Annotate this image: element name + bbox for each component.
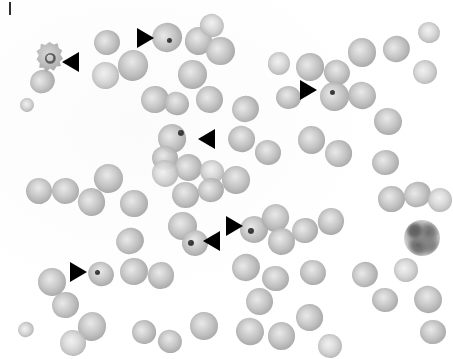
- red-blood-cell: [320, 135, 356, 171]
- cell-inclusion: [45, 53, 56, 64]
- red-blood-cell: [113, 46, 152, 86]
- red-blood-cell: [21, 173, 56, 208]
- red-blood-cell: [112, 224, 148, 259]
- red-blood-cell: [155, 121, 189, 155]
- arrowhead-mid-left-inclusion-icon: [203, 231, 220, 251]
- cell-inclusion: [188, 240, 194, 246]
- red-blood-cell: [196, 175, 227, 205]
- red-blood-cell: [129, 317, 159, 346]
- red-blood-cell: [177, 59, 207, 90]
- arrowhead-lower-left-inclusion-icon: [70, 262, 87, 282]
- red-blood-cell: [90, 160, 127, 197]
- red-blood-cell: [182, 24, 214, 57]
- red-blood-cell: [38, 268, 67, 297]
- cell-inclusion: [248, 228, 254, 234]
- red-blood-cell: [343, 77, 380, 114]
- red-blood-cell: [75, 309, 110, 344]
- red-blood-cell: [348, 38, 376, 67]
- micrograph-figure: [0, 0, 453, 359]
- arrowhead-upper-right-inclusion-icon: [300, 80, 317, 100]
- red-blood-cell: [379, 32, 414, 67]
- arrowhead-top-inclusion-icon: [137, 28, 154, 48]
- red-blood-cell: [267, 321, 295, 350]
- cell-inclusion: [95, 270, 100, 275]
- red-blood-cell: [92, 62, 120, 90]
- red-blood-cell: [147, 18, 186, 57]
- corner-tick-mark: [9, 2, 11, 15]
- red-blood-cell: [253, 138, 283, 166]
- red-blood-cell: [15, 319, 36, 340]
- red-blood-cell: [260, 263, 292, 293]
- red-blood-cell: [146, 261, 175, 290]
- red-blood-cell: [19, 97, 35, 113]
- red-blood-cell: [289, 215, 321, 246]
- cell-inclusion: [167, 38, 172, 43]
- red-blood-cell: [318, 80, 352, 114]
- slide-background: [0, 0, 453, 359]
- red-blood-cell: [168, 212, 197, 241]
- red-blood-cell: [420, 320, 446, 345]
- red-blood-cell: [391, 255, 420, 285]
- red-blood-cell: [196, 10, 227, 41]
- red-blood-cell: [227, 91, 263, 127]
- red-blood-cell: [257, 199, 294, 236]
- red-blood-cell: [119, 189, 149, 217]
- red-blood-cell: [74, 185, 108, 220]
- red-blood-cell: [137, 82, 173, 117]
- red-blood-cell: [147, 156, 182, 191]
- red-blood-cell: [84, 258, 118, 291]
- red-blood-cell: [320, 56, 353, 89]
- red-blood-cell: [190, 312, 219, 341]
- red-blood-cell: [228, 249, 265, 285]
- red-blood-cell: [410, 282, 446, 318]
- red-blood-cell: [26, 65, 59, 98]
- red-blood-cell: [217, 162, 254, 199]
- crenated-red-blood-cell: [36, 42, 63, 72]
- arrowhead-mid-right-inclusion-icon: [226, 216, 243, 236]
- red-blood-cell: [51, 177, 80, 205]
- red-blood-cell: [161, 89, 192, 119]
- red-blood-cell: [292, 300, 327, 334]
- red-blood-cell: [275, 85, 302, 110]
- arrowhead-crenated-cell-icon: [62, 52, 79, 72]
- red-blood-cell: [204, 34, 238, 67]
- stained-leukocyte: [404, 220, 440, 256]
- red-blood-cell: [195, 85, 225, 115]
- red-blood-cell: [91, 27, 123, 58]
- red-blood-cell: [317, 333, 343, 359]
- red-blood-cell: [198, 157, 227, 185]
- cell-inclusion: [330, 90, 335, 95]
- red-blood-cell: [410, 57, 441, 88]
- red-blood-cell: [347, 257, 382, 292]
- red-blood-cell: [371, 104, 406, 138]
- red-blood-cell: [232, 313, 269, 349]
- red-blood-cell: [377, 185, 405, 213]
- red-blood-cell: [48, 288, 82, 322]
- red-blood-cell: [314, 204, 348, 238]
- red-blood-cell: [426, 186, 453, 214]
- red-blood-cell: [297, 125, 326, 155]
- red-blood-cell: [416, 20, 442, 45]
- cell-inclusion: [178, 130, 184, 136]
- red-blood-cell: [244, 286, 276, 318]
- red-blood-cell: [152, 146, 178, 170]
- red-blood-cell: [267, 227, 297, 256]
- red-blood-cell: [370, 286, 399, 314]
- red-blood-cell: [224, 122, 259, 157]
- red-blood-cell: [170, 180, 201, 211]
- red-blood-cell: [267, 51, 292, 76]
- red-blood-cell: [297, 257, 329, 288]
- arrowhead-center-inclusion-icon: [198, 129, 215, 149]
- red-blood-cell: [155, 326, 185, 356]
- red-blood-cell: [293, 50, 327, 84]
- red-blood-cell: [171, 150, 207, 186]
- red-blood-cell: [370, 148, 401, 177]
- red-blood-cell: [400, 177, 435, 212]
- red-blood-cell: [179, 227, 211, 259]
- red-blood-cell: [117, 255, 150, 287]
- red-blood-cell: [59, 329, 88, 358]
- red-blood-cell: [238, 214, 269, 245]
